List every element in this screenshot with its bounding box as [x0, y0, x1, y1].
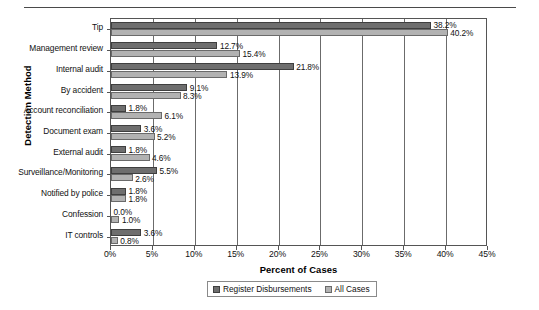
bar-1	[111, 195, 126, 202]
bar-group-row: 38.2%40.2%	[111, 19, 486, 40]
y-axis-label-it-controls: IT controls	[0, 231, 103, 240]
bar-group-row: 3.6%0.8%	[111, 226, 486, 247]
x-axis-label-25: 25%	[299, 250, 339, 259]
x-axis-label-45: 45%	[467, 250, 507, 259]
bar-0	[111, 146, 126, 153]
bar-0	[111, 125, 141, 132]
x-axis-label-40: 40%	[425, 250, 465, 259]
legend-swatch-all-cases	[325, 286, 332, 293]
y-axis-label-document-exam: Document exam	[0, 127, 103, 136]
legend-item-0: Register Disbursements	[213, 284, 312, 294]
y-axis-label-management-review: Management review	[0, 44, 103, 53]
bar-group-row: 1.8%4.6%	[111, 143, 486, 164]
bar-0	[111, 63, 294, 70]
plot-area: 38.2%40.2%12.7%15.4%21.8%13.9%9.1%8.3%1.…	[110, 18, 487, 246]
legend-swatch-register-disbursements	[213, 286, 220, 293]
x-axis-label-30: 30%	[341, 250, 381, 259]
y-axis-label-tip: Tip	[0, 23, 103, 32]
legend-label-0: Register Disbursements	[223, 284, 312, 294]
y-axis-tick	[107, 29, 111, 30]
bar-0	[111, 84, 187, 91]
bar-0	[111, 22, 431, 29]
bar-group-row: 9.1%8.3%	[111, 81, 486, 102]
legend-label-1: All Cases	[335, 284, 370, 294]
bar-0	[111, 229, 141, 236]
bar-value-label: 1.8%	[129, 195, 148, 203]
bar-1	[111, 237, 118, 244]
bar-1	[111, 174, 133, 181]
x-axis-label-15: 15%	[216, 250, 256, 259]
bar-value-label: 2.6%	[135, 175, 154, 183]
x-axis-label-35: 35%	[383, 250, 423, 259]
bar-value-label: 15.4%	[243, 50, 266, 58]
bar-1	[111, 92, 181, 99]
y-axis-label-notified-by-police: Notified by police	[0, 189, 103, 198]
x-axis-label-20: 20%	[258, 250, 298, 259]
bar-value-label: 5.2%	[157, 133, 176, 141]
y-axis-tick	[107, 50, 111, 51]
bar-0	[111, 188, 126, 195]
x-axis-label-10: 10%	[174, 250, 214, 259]
bar-1	[111, 154, 150, 161]
bar-value-label: 21.8%	[296, 63, 319, 71]
y-axis-tick	[107, 154, 111, 155]
bar-0	[111, 42, 217, 49]
y-axis-tick	[107, 216, 111, 217]
detection-method-bar-chart: Detection Method 38.2%40.2%12.7%15.4%21.…	[0, 0, 539, 310]
bar-value-label: 40.2%	[450, 29, 473, 37]
bar-value-label: 0.8%	[120, 237, 139, 245]
bar-value-label: 5.5%	[160, 167, 179, 175]
y-axis-tick	[107, 237, 111, 238]
y-axis-label-confession: Confession	[0, 210, 103, 219]
bar-group-row: 3.6%5.2%	[111, 123, 486, 144]
bar-1	[111, 29, 448, 36]
y-axis-label-by-accident: By accident	[0, 86, 103, 95]
bar-1	[111, 216, 119, 223]
bar-1	[111, 71, 227, 78]
bar-group-row: 21.8%13.9%	[111, 60, 486, 81]
bar-value-label: 1.0%	[122, 216, 141, 224]
legend-item-1: All Cases	[325, 284, 370, 294]
bar-group-row: 1.8%1.8%	[111, 185, 486, 206]
x-axis-label-0: 0%	[90, 250, 130, 259]
y-axis-label-surveillance-monitoring: Surveillance/Monitoring	[0, 168, 103, 177]
bar-1	[111, 133, 155, 140]
bar-0	[111, 105, 126, 112]
bar-1	[111, 112, 162, 119]
bar-group-row: 5.5%2.6%	[111, 164, 486, 185]
y-axis-tick	[107, 71, 111, 72]
y-axis-label-internal-audit: Internal audit	[0, 65, 103, 74]
bar-group-row: 0.0%1.0%	[111, 206, 486, 227]
y-axis-tick	[107, 133, 111, 134]
chart-legend: Register Disbursements All Cases	[207, 281, 377, 297]
bar-value-label: 3.6%	[144, 229, 163, 237]
bar-value-label: 4.6%	[152, 154, 171, 162]
bar-group-row: 1.8%6.1%	[111, 102, 486, 123]
y-axis-label-external-audit: External audit	[0, 148, 103, 157]
y-axis-label-account-reconciliation: Account reconciliation	[0, 106, 103, 115]
y-axis-tick	[107, 92, 111, 93]
bar-1	[111, 50, 240, 57]
bar-group-row: 12.7%15.4%	[111, 40, 486, 61]
y-axis-tick	[107, 195, 111, 196]
x-axis-title: Percent of Cases	[110, 264, 487, 275]
y-axis-tick	[107, 174, 111, 175]
bar-value-label: 6.1%	[165, 112, 184, 120]
bar-value-label: 8.3%	[183, 92, 202, 100]
bar-0	[111, 167, 157, 174]
bar-value-label: 13.9%	[230, 71, 253, 79]
y-axis-tick	[107, 112, 111, 113]
x-axis-label-5: 5%	[132, 250, 172, 259]
